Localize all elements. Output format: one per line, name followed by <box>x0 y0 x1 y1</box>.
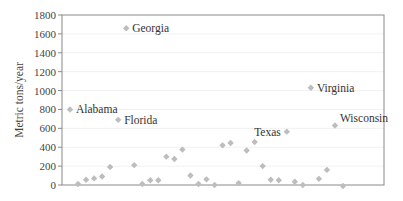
diamond-marker <box>115 117 121 123</box>
point-label-texas: Texas <box>254 126 281 138</box>
point-labels: AlabamaFloridaGeorgiaTexasVirginiaWiscon… <box>76 22 388 137</box>
diamond-marker <box>187 172 193 178</box>
y-tick-label: 1200 <box>34 66 57 78</box>
diamond-marker <box>75 181 81 187</box>
y-tick-label: 1800 <box>34 9 57 21</box>
diamond-marker <box>316 176 322 182</box>
y-tick-label: 600 <box>40 122 57 134</box>
diamond-marker <box>284 128 290 134</box>
y-axis-title: Metric tons/year <box>13 62 26 138</box>
y-tick-label: 1400 <box>34 47 57 59</box>
diamond-marker <box>276 177 282 183</box>
diamond-marker <box>340 183 346 189</box>
diamond-marker <box>147 177 153 183</box>
diamond-marker <box>163 153 169 159</box>
diamond-marker <box>203 176 209 182</box>
diamond-marker <box>292 178 298 184</box>
diamond-marker <box>332 122 338 128</box>
y-tick-label: 1600 <box>34 28 57 40</box>
diamond-marker <box>131 162 137 168</box>
y-tick-label: 800 <box>40 103 57 115</box>
diamond-marker <box>83 177 89 183</box>
diamond-marker <box>243 147 249 153</box>
diamond-marker <box>251 139 257 145</box>
point-label-wisconsin: Wisconsin <box>340 112 388 124</box>
diamond-marker <box>99 173 105 179</box>
diamond-marker <box>155 177 161 183</box>
diamond-marker <box>300 182 306 188</box>
diamond-marker <box>195 181 201 187</box>
diamond-marker <box>211 182 217 188</box>
diamond-marker <box>308 85 314 91</box>
diamond-marker <box>123 25 129 31</box>
diamond-marker <box>171 156 177 162</box>
y-tick-label: 400 <box>40 141 57 153</box>
diamond-marker <box>67 106 73 112</box>
diamond-marker <box>91 175 97 181</box>
diamond-marker <box>260 163 266 169</box>
diamond-marker <box>227 140 233 146</box>
diamond-marker <box>268 177 274 183</box>
point-label-alabama: Alabama <box>76 103 118 115</box>
diamond-marker <box>139 181 145 187</box>
y-axis-ticks: 020040060080010001200140016001800 <box>34 9 62 191</box>
y-tick-label: 0 <box>51 179 57 191</box>
point-label-georgia: Georgia <box>132 22 169 35</box>
diamond-marker <box>324 167 330 173</box>
y-tick-label: 200 <box>40 160 57 172</box>
scatter-chart: 020040060080010001200140016001800 Metric… <box>0 0 403 201</box>
point-label-virginia: Virginia <box>317 82 354 95</box>
point-label-florida: Florida <box>124 114 157 126</box>
diamond-marker <box>107 164 113 170</box>
plot-frame <box>62 15 384 185</box>
y-tick-label: 1000 <box>34 85 57 97</box>
